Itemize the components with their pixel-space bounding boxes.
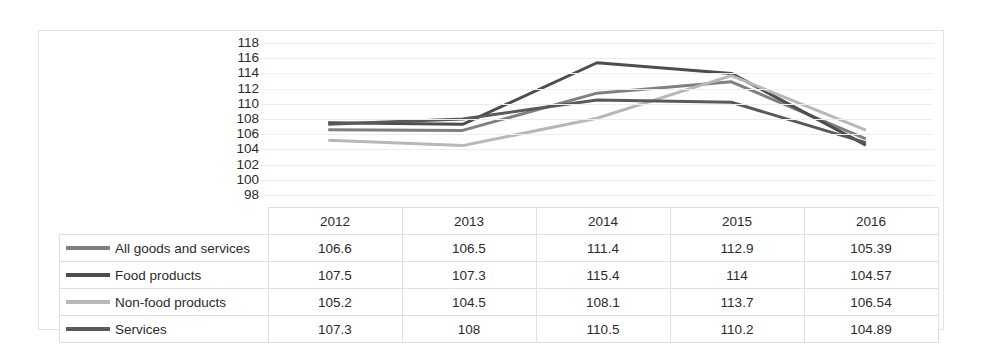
- table-value-cell: 111.4: [536, 235, 670, 262]
- legend-label: All goods and services: [115, 241, 250, 256]
- legend-color-swatch: [66, 327, 110, 331]
- y-axis-tick-label: 114: [209, 67, 259, 81]
- gridline: [261, 73, 933, 74]
- table-value-cell: 106.5: [402, 235, 536, 262]
- table-value-cell: 104.89: [804, 316, 938, 343]
- series-line: [328, 82, 866, 139]
- legend-entry: All goods and services: [60, 235, 269, 262]
- y-axis-tick-label: 112: [209, 82, 259, 96]
- table-value-cell: 106.6: [268, 235, 402, 262]
- table-row: Services107.3108110.5110.2104.89: [60, 316, 939, 343]
- table-value-cell: 107.3: [402, 262, 536, 289]
- legend-color-swatch: [66, 273, 110, 277]
- table-row: Non-food products105.2104.5108.1113.7106…: [60, 289, 939, 316]
- y-axis-tick-label: 118: [209, 36, 259, 50]
- y-axis-tick-label: 110: [209, 97, 259, 111]
- table-value-cell: 110.5: [536, 316, 670, 343]
- legend-color-swatch: [66, 300, 110, 304]
- gridline: [261, 89, 933, 90]
- legend-entry: Non-food products: [60, 289, 269, 316]
- legend-label: Services: [115, 322, 167, 337]
- plot-area: [261, 43, 933, 195]
- gridline: [261, 43, 933, 44]
- chart-container: 11811611411211010810610410210098 2012201…: [38, 30, 944, 330]
- data-table: 20122013201420152016 All goods and servi…: [59, 207, 939, 343]
- y-axis-tick-label: 98: [209, 188, 259, 202]
- y-axis-tick-label: 104: [209, 143, 259, 157]
- table-value-cell: 113.7: [670, 289, 804, 316]
- table-body: All goods and services106.6106.5111.4112…: [60, 235, 939, 343]
- legend-entry: Food products: [60, 262, 269, 289]
- table-row: All goods and services106.6106.5111.4112…: [60, 235, 939, 262]
- y-axis-tick-label: 108: [209, 112, 259, 126]
- legend-entry: Services: [60, 316, 269, 343]
- legend-label: Food products: [115, 268, 201, 283]
- gridline: [261, 149, 933, 150]
- table-value-cell: 107.3: [268, 316, 402, 343]
- gridline: [261, 119, 933, 120]
- gridline: [261, 104, 933, 105]
- table-value-cell: 115.4: [536, 262, 670, 289]
- legend-color-swatch: [66, 246, 110, 250]
- table-value-cell: 108.1: [536, 289, 670, 316]
- table-value-cell: 106.54: [804, 289, 938, 316]
- y-axis-tick-label: 100: [209, 173, 259, 187]
- gridline: [261, 195, 933, 196]
- gridline: [261, 134, 933, 135]
- table-corner-cell: [60, 208, 269, 235]
- table-value-cell: 105.39: [804, 235, 938, 262]
- table-value-cell: 110.2: [670, 316, 804, 343]
- table-value-cell: 107.5: [268, 262, 402, 289]
- table-value-cell: 104.5: [402, 289, 536, 316]
- y-axis: 11811611411211010810610410210098: [209, 43, 259, 195]
- plot-region: 11811611411211010810610410210098: [39, 31, 945, 206]
- table-year-header: 2016: [804, 208, 938, 235]
- table-value-cell: 105.2: [268, 289, 402, 316]
- table-header-row: 20122013201420152016: [60, 208, 939, 235]
- table-value-cell: 108: [402, 316, 536, 343]
- table-year-header: 2015: [670, 208, 804, 235]
- table-value-cell: 114: [670, 262, 804, 289]
- table-year-header: 2012: [268, 208, 402, 235]
- gridline: [261, 180, 933, 181]
- y-axis-tick-label: 102: [209, 158, 259, 172]
- table-value-cell: 104.57: [804, 262, 938, 289]
- series-line: [328, 76, 866, 146]
- gridline: [261, 58, 933, 59]
- table-row: Food products107.5107.3115.4114104.57: [60, 262, 939, 289]
- legend-label: Non-food products: [115, 295, 226, 310]
- table-year-header: 2014: [536, 208, 670, 235]
- series-line: [328, 100, 866, 143]
- table-year-header: 2013: [402, 208, 536, 235]
- gridline: [261, 165, 933, 166]
- y-axis-tick-label: 116: [209, 51, 259, 65]
- y-axis-tick-label: 106: [209, 127, 259, 141]
- table-value-cell: 112.9: [670, 235, 804, 262]
